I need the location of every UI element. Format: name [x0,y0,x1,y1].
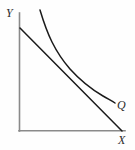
indifference-curve-figure: Y X Q [0,0,135,150]
curve-label-q: Q [117,99,126,111]
figure-canvas [0,0,135,150]
y-axis-label: Y [6,7,13,19]
x-axis-label: X [118,134,125,146]
